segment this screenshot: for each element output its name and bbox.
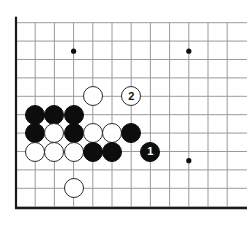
star-point-upper-left xyxy=(71,49,76,54)
stone-black[interactable] xyxy=(44,105,64,125)
stone-white[interactable] xyxy=(83,123,103,143)
stone-white[interactable] xyxy=(64,178,84,198)
stone-marked-1[interactable]: 1 xyxy=(140,142,160,162)
stone-black[interactable] xyxy=(64,105,84,125)
stone-white[interactable] xyxy=(44,142,64,162)
stone-black[interactable] xyxy=(25,105,45,125)
stone-black[interactable] xyxy=(64,123,84,143)
star-point-lower-right xyxy=(186,158,191,163)
stone-white[interactable] xyxy=(64,142,84,162)
stone-white[interactable] xyxy=(102,123,122,143)
star-point-upper-right xyxy=(186,49,191,54)
stone-move-number: 1 xyxy=(147,146,153,157)
stone-white[interactable] xyxy=(25,142,45,162)
go-board-diagram: 21 xyxy=(0,0,247,230)
stone-white[interactable] xyxy=(83,86,103,106)
stone-black[interactable] xyxy=(102,142,122,162)
stone-move-number: 2 xyxy=(128,90,134,101)
stone-black[interactable] xyxy=(83,142,103,162)
